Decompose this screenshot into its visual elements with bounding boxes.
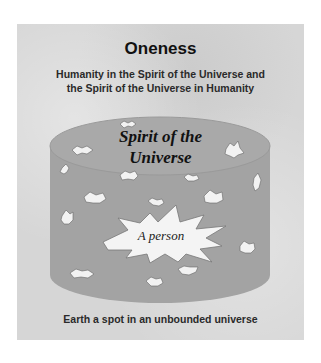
spirit-of-universe-label: Spirit of the Universe bbox=[0, 126, 321, 168]
cylinder-diagram bbox=[0, 0, 321, 363]
spirit-label-line-2: Universe bbox=[0, 147, 321, 168]
diagram-caption: Earth a spot in an unbounded universe bbox=[0, 313, 321, 325]
spirit-label-line-1: Spirit of the bbox=[0, 126, 321, 147]
person-label: A person bbox=[130, 228, 192, 244]
